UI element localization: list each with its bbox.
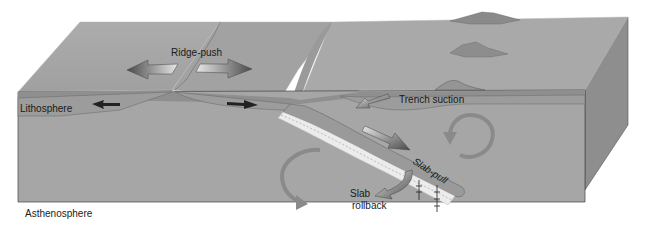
lithosphere-label: Lithosphere	[20, 103, 73, 114]
ridge-push-label: Ridge-push	[171, 47, 222, 58]
volcano-island-far	[450, 12, 520, 24]
slab-rollback-label-line2: rollback	[352, 200, 387, 211]
diagram-canvas: Ridge-push Lithosphere Trench suction Sl…	[0, 0, 647, 237]
slab-rollback-label-line1: Slab	[350, 188, 370, 199]
trench-suction-label: Trench suction	[399, 94, 464, 105]
asthenosphere-label: Asthenosphere	[25, 208, 93, 219]
tectonic-forces-diagram: Ridge-push Lithosphere Trench suction Sl…	[0, 0, 647, 237]
